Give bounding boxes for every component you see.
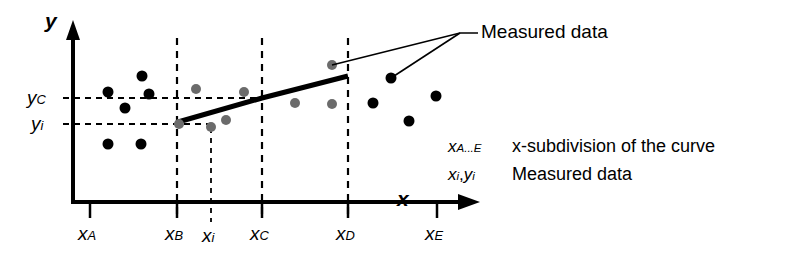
x-tick-label-xb-base: x bbox=[165, 223, 175, 244]
y-axis-label: y bbox=[45, 10, 57, 31]
x-tick-label-xi: xi bbox=[202, 226, 214, 245]
data-point bbox=[368, 98, 379, 109]
diagram-canvas bbox=[0, 0, 785, 262]
x-tick-label-xc-sub: C bbox=[260, 228, 269, 243]
measured-data-diagram: y x yC yi xA xB xi xC xD xE Measured dat… bbox=[0, 0, 785, 262]
data-point bbox=[103, 139, 114, 150]
data-point bbox=[327, 99, 337, 109]
legend-symbol-xae: xA...E bbox=[448, 137, 512, 157]
x-axis-label: x bbox=[397, 188, 409, 209]
x-tick-label-xd: xD bbox=[336, 224, 355, 243]
leader-line-gray-point bbox=[332, 33, 478, 65]
x-tick-label-xc-base: x bbox=[250, 223, 260, 244]
data-point bbox=[137, 71, 148, 82]
legend-symbol-xae-sub: A...E bbox=[457, 142, 482, 154]
x-tick-label-xe: xE bbox=[425, 224, 443, 243]
data-point bbox=[174, 119, 184, 129]
x-tick-label-xd-sub: D bbox=[346, 228, 355, 243]
legend-symbol-xi-base: x bbox=[448, 165, 457, 184]
data-point bbox=[206, 122, 216, 132]
x-tick-label-xe-sub: E bbox=[435, 228, 444, 243]
data-point bbox=[404, 116, 415, 127]
x-tick-label-xe-base: x bbox=[425, 223, 435, 244]
y-tick-label-yi-sub: i bbox=[41, 118, 44, 133]
data-point bbox=[103, 87, 114, 98]
data-points-gray bbox=[174, 60, 337, 132]
x-tick-label-xb-sub: B bbox=[175, 228, 184, 243]
data-point bbox=[290, 98, 300, 108]
axis-group bbox=[66, 20, 480, 210]
x-tick-label-xd-base: x bbox=[336, 223, 346, 244]
legend-symbol-yi-sub: i bbox=[472, 170, 475, 182]
x-tick-label-xi-sub: i bbox=[212, 230, 215, 245]
y-projection-lines bbox=[63, 98, 262, 124]
x-tick-marks bbox=[90, 202, 437, 218]
x-tick-label-xi-base: x bbox=[202, 225, 212, 246]
x-tick-label-xa: xA bbox=[78, 224, 96, 243]
data-point bbox=[120, 103, 131, 114]
legend-description-measured: Measured data bbox=[512, 164, 632, 185]
y-tick-label-yi: yi bbox=[31, 114, 43, 133]
data-point bbox=[221, 115, 231, 125]
data-points-black bbox=[103, 71, 442, 150]
legend-description-subdivision: x-subdivision of the curve bbox=[512, 136, 715, 157]
subdivision-verticals bbox=[177, 38, 348, 216]
callout-leader-lines bbox=[332, 33, 478, 78]
data-point bbox=[431, 91, 442, 102]
legend-row-measured: xi,yi Measured data bbox=[448, 164, 715, 185]
data-point bbox=[136, 139, 147, 150]
y-axis-arrowhead bbox=[66, 20, 80, 40]
x-tick-label-xa-base: x bbox=[78, 223, 88, 244]
data-point bbox=[191, 84, 201, 94]
x-tick-label-xb: xB bbox=[165, 224, 183, 243]
x-tick-label-xa-sub: A bbox=[88, 228, 97, 243]
data-point bbox=[144, 89, 155, 100]
legend-symbol-xiyi: xi,yi bbox=[448, 165, 512, 185]
legend-symbol-xae-base: x bbox=[448, 137, 457, 156]
y-tick-label-yc: yC bbox=[27, 88, 46, 107]
legend: xA...E x-subdivision of the curve xi,yi … bbox=[448, 136, 715, 185]
y-tick-label-yi-base: y bbox=[31, 113, 41, 134]
legend-row-subdivision: xA...E x-subdivision of the curve bbox=[448, 136, 715, 157]
data-point bbox=[239, 87, 249, 97]
y-tick-label-yc-base: y bbox=[27, 87, 37, 108]
x-tick-label-xc: xC bbox=[250, 224, 269, 243]
x-axis-arrowhead bbox=[458, 194, 480, 210]
y-tick-label-yc-sub: C bbox=[37, 92, 46, 107]
measured-data-callout: Measured data bbox=[481, 22, 608, 41]
leader-line-black-point bbox=[391, 33, 460, 78]
